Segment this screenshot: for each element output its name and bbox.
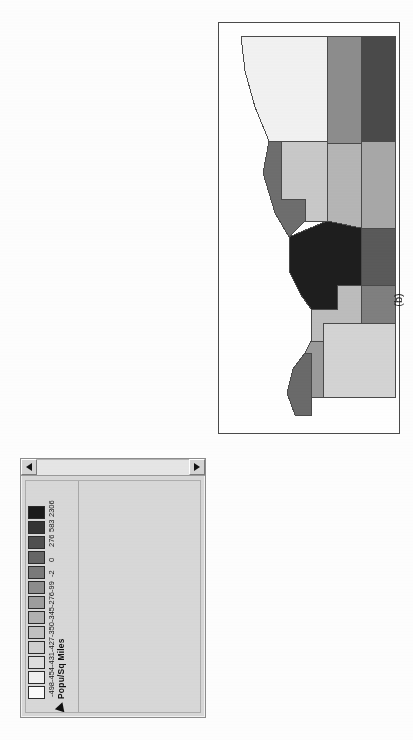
legend-swatch[interactable] [28, 656, 45, 669]
legend-swatch[interactable] [28, 611, 45, 624]
figure-page: (b) Popu/Sq Miles -498-454-431-427-350-3… [0, 0, 413, 740]
right-arrow-icon [194, 463, 200, 471]
legend-title: Popu/Sq Miles [56, 638, 66, 699]
legend-swatch-strip[interactable]: -498-454-431-427-350-345-276-99-20276583… [28, 504, 45, 699]
legend-class-2[interactable]: -431 [28, 654, 45, 669]
legend-swatch[interactable] [28, 671, 45, 684]
scroll-left-button[interactable] [21, 459, 37, 475]
legend-break-label: 583 [47, 519, 56, 532]
legend-break-label: -99 [47, 581, 56, 592]
legend-break-label: -350 [47, 622, 56, 637]
region-12[interactable] [323, 323, 395, 397]
legend-class-4[interactable]: -350 [28, 624, 45, 639]
legend-class-6[interactable]: -276 [28, 594, 45, 609]
legend-class-1[interactable]: -454 [28, 669, 45, 684]
legend-break-label: -276 [47, 592, 56, 607]
region-3[interactable] [361, 36, 395, 141]
legend-class-3[interactable]: -427 [28, 639, 45, 654]
legend-class-11[interactable]: 583 [28, 519, 45, 534]
legend-swatch[interactable] [28, 521, 45, 534]
legend-class-10[interactable]: 276 [28, 534, 45, 549]
region-7[interactable] [361, 141, 395, 228]
legend-swatch[interactable] [28, 536, 45, 549]
legend-swatch[interactable] [28, 506, 45, 519]
legend-window[interactable]: Popu/Sq Miles -498-454-431-427-350-345-2… [20, 458, 206, 718]
map-panel[interactable] [218, 22, 400, 434]
legend-swatch[interactable] [28, 566, 45, 579]
legend-class-12[interactable]: 2306 [28, 504, 45, 519]
legend-swatch[interactable] [28, 686, 45, 699]
legend-swatch[interactable] [28, 581, 45, 594]
choropleth-map[interactable] [219, 23, 400, 434]
region-6[interactable] [327, 143, 361, 228]
legend-break-label: -498 [47, 682, 56, 697]
legend-class-5[interactable]: -345 [28, 609, 45, 624]
legend-break-label: -345 [47, 607, 56, 622]
panel-divider [78, 481, 79, 712]
legend-break-label: -2 [47, 570, 56, 577]
legend-swatch[interactable] [28, 641, 45, 654]
arrow-cursor-icon [55, 701, 67, 713]
legend-class-8[interactable]: -2 [28, 564, 45, 579]
region-9[interactable] [361, 228, 395, 285]
legend-break-label: -427 [47, 637, 56, 652]
legend-break-label: 2306 [47, 500, 56, 517]
legend-class-7[interactable]: -99 [28, 579, 45, 594]
legend-swatch[interactable] [28, 626, 45, 639]
legend-break-label: -454 [47, 667, 56, 682]
legend-class-9[interactable]: 0 [28, 549, 45, 564]
legend-rotated-content: Popu/Sq Miles -498-454-431-427-350-345-2… [26, 481, 78, 713]
legend-break-label: -431 [47, 652, 56, 667]
legend-break-label: 276 [47, 534, 56, 547]
legend-swatch[interactable] [28, 596, 45, 609]
scroll-right-button[interactable] [189, 459, 205, 475]
scrollbar-track[interactable] [37, 459, 189, 475]
figure-caption: (b) [381, 291, 413, 309]
region-2[interactable] [327, 36, 361, 143]
legend-class-0[interactable]: -498 [28, 684, 45, 699]
legend-client-area[interactable]: Popu/Sq Miles -498-454-431-427-350-345-2… [25, 480, 201, 713]
legend-break-label: 0 [47, 558, 56, 562]
horizontal-scrollbar[interactable] [21, 459, 205, 476]
left-arrow-icon [26, 463, 32, 471]
legend-swatch[interactable] [28, 551, 45, 564]
